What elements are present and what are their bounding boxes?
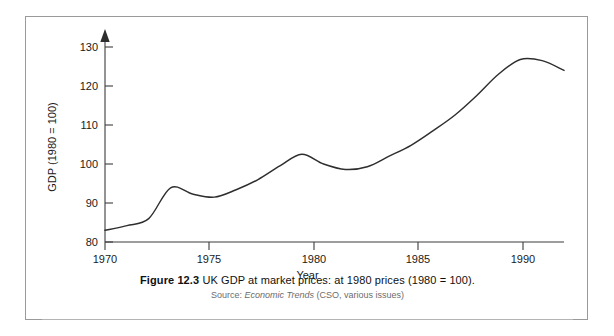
y-tick-label-90: 90	[86, 197, 98, 209]
figure-caption: Figure 12.3 UK GDP at market prices: at …	[26, 273, 589, 288]
gdp-line-chart: 130 120 110 100 90 80 1970 1975 1980 198…	[26, 17, 589, 269]
chart-plot-area: 130 120 110 100 90 80 1970 1975 1980 198…	[26, 17, 589, 269]
x-axis-ticks	[105, 242, 523, 250]
figure-caption-text: UK GDP at market prices: at 1980 prices …	[202, 274, 475, 286]
x-tick-label-1970: 1970	[93, 253, 117, 265]
figure-frame: 130 120 110 100 90 80 1970 1975 1980 198…	[25, 16, 588, 320]
figure-caption-block: Figure 12.3 UK GDP at market prices: at …	[26, 273, 589, 302]
figure-number-label: Figure 12.3	[140, 274, 199, 286]
caption-divider	[42, 319, 573, 320]
y-tick-label-120: 120	[80, 80, 98, 92]
y-tick-label-130: 130	[80, 41, 98, 53]
y-axis	[100, 29, 109, 242]
y-axis-ticks	[105, 47, 113, 242]
y-tick-label-100: 100	[80, 158, 98, 170]
x-tick-label-1985: 1985	[406, 253, 430, 265]
source-suffix: (CSO, various issues)	[316, 290, 404, 300]
gdp-series-line	[105, 58, 564, 230]
x-tick-label-1975: 1975	[197, 253, 221, 265]
x-tick-label-1980: 1980	[302, 253, 326, 265]
figure-source-line: Source: Economic Trends (CSO, various is…	[26, 289, 589, 302]
y-tick-label-110: 110	[80, 119, 98, 131]
y-tick-label-80: 80	[86, 236, 98, 248]
source-publication: Economic Trends	[245, 290, 314, 300]
source-prefix: Source:	[211, 290, 242, 300]
y-axis-title: GDP (1980 = 100)	[46, 102, 58, 191]
x-tick-label-1990: 1990	[511, 253, 535, 265]
y-axis-arrow-icon	[100, 29, 109, 42]
